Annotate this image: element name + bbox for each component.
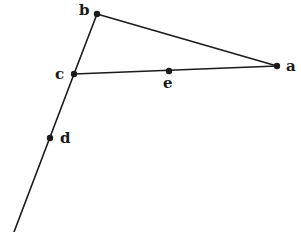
segment-c-a (74, 66, 277, 74)
point-label-c: c (55, 65, 64, 83)
segment-c-ray (14, 74, 74, 232)
point-label-e: e (163, 74, 173, 92)
segment-b-c (74, 14, 97, 74)
diagram-canvas: abcde (0, 0, 301, 232)
segments-group (14, 14, 277, 232)
segment-b-a (97, 14, 277, 66)
point-b (94, 11, 100, 17)
point-a (274, 63, 280, 69)
point-label-b: b (79, 1, 90, 19)
point-d (47, 135, 53, 141)
point-c (71, 71, 77, 77)
point-label-d: d (60, 129, 71, 147)
point-label-a: a (286, 57, 296, 75)
